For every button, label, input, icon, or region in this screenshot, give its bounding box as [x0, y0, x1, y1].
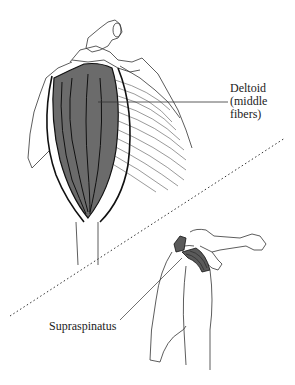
- divider-line: [10, 138, 285, 316]
- shoulder-bones-bottom: [150, 229, 266, 370]
- humerus-left: [76, 222, 78, 265]
- deltoid-label: Deltoid (middle fibers): [230, 82, 267, 121]
- deltoid-muscle: [53, 64, 118, 219]
- anatomy-illustration: [0, 0, 295, 385]
- supraspinatus-muscle: [182, 248, 210, 272]
- deltoid-label-line3: fibers): [230, 108, 267, 121]
- supraspinatus-upper: [174, 236, 186, 252]
- supraspinatus-leader-line: [120, 258, 182, 320]
- supraspinatus-label: Supraspinatus: [49, 320, 116, 333]
